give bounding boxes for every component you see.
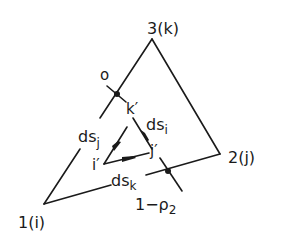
point-rho-dot — [165, 168, 171, 174]
point-o-dot — [114, 91, 120, 97]
ds-i-label: dsi — [146, 115, 168, 137]
edge-3-2 — [152, 39, 220, 154]
ds-k-label: dsk — [111, 171, 137, 193]
point-o-label: o — [100, 66, 109, 84]
ds-k-sub: k — [130, 179, 137, 193]
vertex-3-label: 3(k) — [147, 19, 179, 38]
j-prime-label: j′ — [149, 142, 158, 160]
vertex-2-label: 2(j) — [228, 148, 255, 167]
rho-sub: 2 — [169, 203, 177, 217]
rho-main: 1−ρ — [135, 195, 169, 214]
vertex-1-label: 1(i) — [18, 213, 45, 232]
arrow-ds-k-icon — [122, 156, 136, 162]
ds-k-main: ds — [111, 171, 130, 190]
ds-j-label: dsj — [78, 127, 100, 150]
k-prime-label: k′ — [126, 100, 139, 118]
ds-i-main: ds — [146, 115, 165, 134]
ds-i-sub: i — [165, 123, 168, 137]
i-prime-label: i′ — [92, 156, 100, 174]
tick-rho — [160, 158, 182, 191]
ds-j-sub: j — [96, 136, 100, 150]
ds-j-main: ds — [78, 127, 97, 146]
point-rho-label: 1−ρ2 — [135, 195, 176, 217]
triangle-diagram: 3(k) 2(j) 1(i) o 1−ρ2 k′ j′ i′ dsi dsj d… — [0, 0, 281, 233]
